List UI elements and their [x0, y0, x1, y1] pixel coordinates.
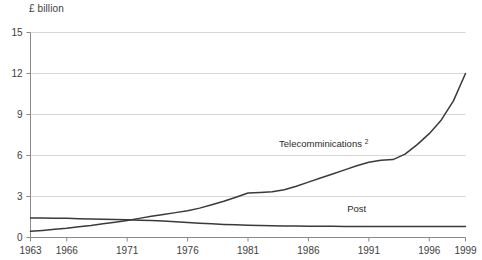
axes — [31, 33, 466, 238]
line-chart: £ billion 03691215 196319661971197619811… — [0, 0, 482, 260]
series-annotations: Telecomminications2Post — [279, 138, 369, 214]
gridlines — [31, 33, 466, 238]
x-tick-label: 1986 — [297, 245, 320, 256]
annotation-text: Telecomminications — [279, 138, 362, 149]
y-tick-label: 3 — [17, 191, 23, 202]
x-axis-ticks: 196319661971197619811986199119961999 — [19, 238, 477, 256]
y-tick-label: 9 — [17, 109, 23, 120]
x-tick-label: 1981 — [237, 245, 260, 256]
x-tick-label: 1963 — [19, 245, 42, 256]
annotation: Post — [347, 203, 366, 214]
x-tick-label: 1971 — [116, 245, 139, 256]
annotation-text: Post — [347, 203, 366, 214]
x-tick-label: 1991 — [358, 245, 381, 256]
data-series — [31, 74, 466, 232]
x-tick-label: 1976 — [176, 245, 199, 256]
y-tick-label: 15 — [11, 27, 23, 38]
x-tick-label: 1999 — [454, 245, 477, 256]
x-tick-label: 1996 — [418, 245, 441, 256]
annotation-footnote-marker: 2 — [365, 138, 369, 145]
chart-canvas: 03691215 1963196619711976198119861991199… — [0, 0, 482, 260]
y-tick-label: 12 — [11, 68, 23, 79]
series-line-telecommunications — [31, 74, 466, 232]
x-tick-label: 1966 — [56, 245, 79, 256]
annotation: Telecomminications2 — [279, 138, 369, 150]
y-axis-ticks: 03691215 — [11, 27, 30, 243]
y-tick-label: 0 — [17, 232, 23, 243]
y-tick-label: 6 — [17, 150, 23, 161]
